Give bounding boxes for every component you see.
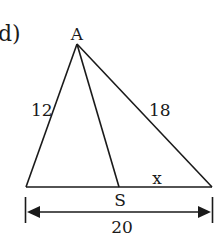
triangle <box>26 44 212 187</box>
arrowhead-right-icon <box>198 206 211 218</box>
part-label: d) <box>0 21 21 46</box>
triangle-diagram: d) A 12 18 x S 20 <box>0 0 224 239</box>
side-left-label: 12 <box>31 100 53 120</box>
vertex-a-label: A <box>70 24 84 44</box>
base-total-label: 20 <box>111 217 133 237</box>
arrowhead-left-icon <box>27 206 40 218</box>
segment-x-label: x <box>152 168 162 188</box>
vertex-s-label: S <box>114 190 126 210</box>
side-right-label: 18 <box>149 100 171 120</box>
